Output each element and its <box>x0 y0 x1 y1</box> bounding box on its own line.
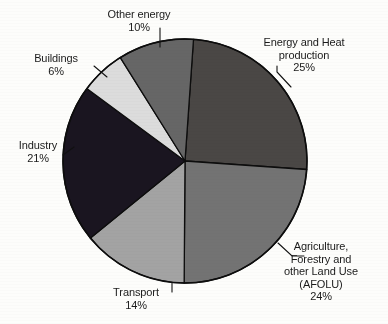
pie-label-energy-heat: Energy and Heat production 25% <box>244 36 364 74</box>
pie-chart-figure: Energy and Heat production 25% Agricultu… <box>0 0 388 324</box>
pie-label-afolu: Agriculture, Forestry and other Land Use… <box>266 240 376 303</box>
pie-label-industry: Industry 21% <box>2 139 74 164</box>
pie-label-other-energy: Other energy 10% <box>88 8 190 33</box>
pie-label-buildings: Buildings 6% <box>20 52 92 77</box>
pie-label-transport: Transport 14% <box>88 286 184 311</box>
